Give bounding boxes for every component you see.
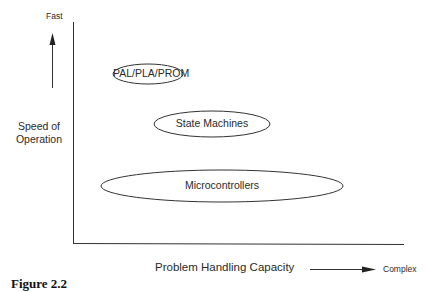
speed-up-arrow-icon: [50, 33, 56, 88]
x-axis-line: [73, 244, 404, 245]
y-axis-top-label: Fast: [46, 11, 63, 21]
y-axis-title-line2: Operation: [13, 133, 65, 146]
y-axis-title-line1: Speed of: [13, 120, 65, 133]
complex-right-arrow-icon: [310, 267, 376, 273]
x-axis-title: Problem Handling Capacity: [155, 261, 294, 273]
region-label-microcontrollers: Microcontrollers: [160, 179, 284, 192]
x-axis-right-label: Complex: [383, 264, 417, 274]
figure-caption: Figure 2.2: [11, 276, 67, 292]
region-label-pal-pla-prom: PAL/PLA/PROM: [113, 67, 183, 80]
y-axis-title: Speed of Operation: [13, 120, 65, 146]
region-label-state-machines: State Machines: [154, 117, 270, 130]
